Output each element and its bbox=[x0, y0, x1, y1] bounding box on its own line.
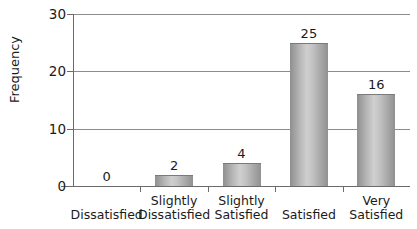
category-label-line-2: Satisfied bbox=[349, 208, 403, 222]
bar bbox=[357, 94, 395, 186]
y-axis-tick-label: 20 bbox=[49, 63, 66, 79]
category-label-line-2: Dissatisfied bbox=[138, 208, 210, 222]
x-axis-category-label: SlightlySatisfied bbox=[215, 194, 269, 222]
category-label-line-1: Satisfied bbox=[282, 207, 336, 222]
bar bbox=[223, 163, 261, 186]
x-axis-category-label: Dissatisfied bbox=[71, 208, 143, 222]
category-label-line-2: Satisfied bbox=[215, 208, 269, 222]
bar-value-label: 0 bbox=[103, 169, 111, 184]
category-label-line-1: Very bbox=[362, 193, 390, 208]
y-axis-tick-label: 30 bbox=[49, 6, 66, 22]
y-axis-tick-label: 0 bbox=[57, 178, 66, 194]
bar-chart: Frequency 0102030 0242516 DissatisfiedSl… bbox=[0, 0, 417, 229]
bar-value-label: 16 bbox=[368, 77, 385, 92]
category-label-line-1: Dissatisfied bbox=[71, 207, 143, 222]
x-axis-category-label: Satisfied bbox=[282, 208, 336, 222]
bar-value-label: 4 bbox=[237, 146, 245, 161]
x-axis-category-label: VerySatisfied bbox=[349, 194, 403, 222]
y-axis-tick-mark bbox=[67, 129, 74, 130]
plot-area: 0102030 0242516 bbox=[73, 14, 410, 186]
y-axis-tick-label: 10 bbox=[49, 121, 66, 137]
gridline bbox=[73, 71, 410, 72]
x-axis-tick-mark bbox=[275, 186, 276, 192]
x-axis-tick-mark bbox=[343, 186, 344, 192]
bar bbox=[155, 175, 193, 186]
y-axis-tick-mark bbox=[67, 186, 74, 187]
x-axis-line bbox=[61, 186, 410, 187]
y-axis-title: Frequency bbox=[7, 0, 22, 140]
x-axis-category-label: SlightlyDissatisfied bbox=[138, 194, 210, 222]
x-axis-tick-mark bbox=[208, 186, 209, 192]
bar-value-label: 2 bbox=[170, 158, 178, 173]
bar bbox=[290, 43, 328, 186]
x-axis-tick-mark bbox=[140, 186, 141, 192]
gridline bbox=[73, 14, 410, 15]
y-axis-tick-mark bbox=[67, 71, 74, 72]
bar-value-label: 25 bbox=[301, 26, 318, 41]
category-label-line-1: Slightly bbox=[151, 193, 198, 208]
y-axis-line bbox=[73, 14, 74, 186]
category-label-line-1: Slightly bbox=[218, 193, 265, 208]
y-axis-tick-mark bbox=[67, 14, 74, 15]
